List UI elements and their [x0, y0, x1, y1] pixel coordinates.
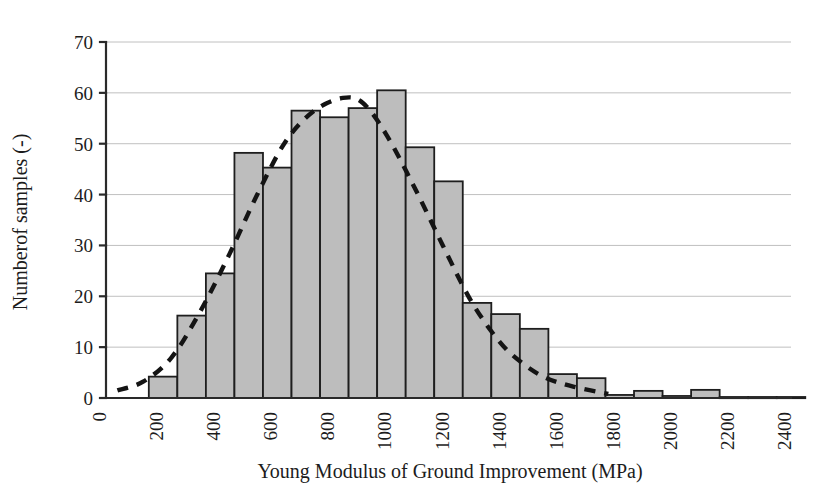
- histogram-bar: [149, 377, 178, 398]
- y-axis-tick-label: 0: [84, 388, 94, 409]
- histogram-bar: [263, 168, 292, 398]
- y-axis-tick-label: 70: [74, 32, 93, 53]
- y-axis-title: Numberof samples (-): [9, 134, 32, 311]
- histogram-bar: [434, 181, 463, 398]
- y-axis-tick-label: 20: [74, 286, 93, 307]
- bars-group: [149, 90, 805, 398]
- histogram-bar: [234, 153, 263, 398]
- y-axis-tick-label: 40: [74, 185, 93, 206]
- histogram-bar: [320, 117, 349, 398]
- histogram-bar: [691, 390, 720, 398]
- y-axis-tick-labels-group: 010203040506070: [74, 32, 93, 409]
- x-axis-tick-label: 2200: [717, 412, 738, 450]
- x-axis-tick-label: 1200: [432, 412, 453, 450]
- histogram-bar: [577, 378, 606, 398]
- histogram-bar: [463, 303, 492, 398]
- x-axis-tick-label: 200: [146, 412, 167, 441]
- histogram-bar: [349, 108, 378, 398]
- x-axis-tick-label: 800: [317, 412, 338, 441]
- x-axis-tick-labels-group: 0200400600800100012001400160018002000220…: [89, 412, 795, 450]
- y-axis-tick-label: 60: [74, 83, 93, 104]
- x-axis-tick-label: 600: [260, 412, 281, 441]
- x-axis-tick-label: 400: [203, 412, 224, 441]
- y-axis-tick-label: 10: [74, 337, 93, 358]
- x-axis-tick-label: 2000: [660, 412, 681, 450]
- histogram-bar: [377, 90, 406, 398]
- histogram-bar: [520, 329, 549, 398]
- x-axis-tick-label: 1400: [489, 412, 510, 450]
- x-axis-title: Young Modulus of Ground Improvement (MPa…: [257, 460, 642, 483]
- y-axis-tick-label: 30: [74, 235, 93, 256]
- chart-canvas: 010203040506070 020040060080010001200140…: [0, 0, 824, 499]
- x-axis-tick-label: 1600: [546, 412, 567, 450]
- x-axis-tick-label: 0: [89, 412, 110, 422]
- histogram-bar: [406, 147, 435, 398]
- y-axis-tick-label: 50: [74, 134, 93, 155]
- histogram-figure: 010203040506070 020040060080010001200140…: [0, 0, 824, 499]
- x-axis-tick-label: 1000: [374, 412, 395, 450]
- x-axis-tick-label: 1800: [603, 412, 624, 450]
- x-axis-tick-label: 2400: [774, 412, 795, 450]
- histogram-bar: [292, 111, 321, 398]
